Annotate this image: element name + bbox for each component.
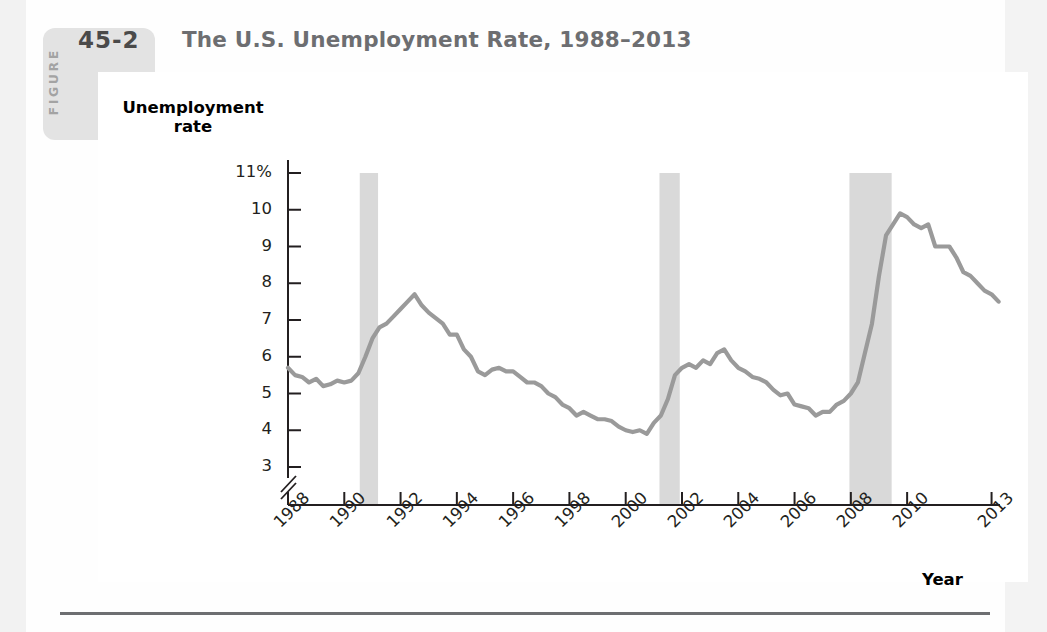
unemployment-line-chart: [0, 0, 1047, 632]
recession-band: [849, 173, 891, 505]
recession-band: [659, 173, 679, 505]
y-tick-label: 7: [212, 309, 272, 328]
y-tick-label: 8: [212, 272, 272, 291]
y-tick-label: 5: [212, 383, 272, 402]
chart-plot-area: [0, 0, 1047, 632]
x-axis-title: Year: [922, 570, 963, 589]
y-tick-label: 4: [212, 419, 272, 438]
y-tick-label: 10: [212, 199, 272, 218]
recession-band: [360, 173, 378, 505]
unemployment-rate-line: [288, 213, 999, 434]
y-tick-label: 11%: [212, 162, 272, 181]
y-tick-label: 6: [212, 346, 272, 365]
y-tick-label: 9: [212, 236, 272, 255]
y-tick-label: 3: [212, 456, 272, 475]
figure-bottom-rule: [60, 612, 990, 615]
